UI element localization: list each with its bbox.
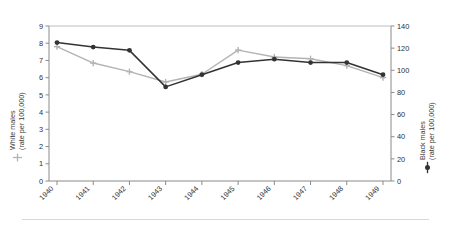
data-point — [199, 72, 204, 77]
series-white-males — [54, 44, 386, 86]
data-point — [272, 57, 277, 62]
left-tick-label: 7 — [39, 56, 43, 65]
x-tick-label: 1949 — [363, 184, 381, 202]
data-point — [127, 48, 132, 53]
left-tick-label: 3 — [39, 125, 43, 134]
x-tick-label: 1944 — [182, 184, 200, 202]
data-point — [236, 60, 241, 65]
chart-container: White males (rate per 100,000) Black mal… — [0, 0, 451, 232]
series-black-males — [55, 40, 386, 89]
left-tick-label: 6 — [39, 73, 43, 82]
bottom-divider — [22, 219, 429, 220]
x-tick-label: 1948 — [327, 184, 345, 202]
left-tick-label: 9 — [39, 22, 43, 31]
left-tick-label: 5 — [39, 91, 43, 100]
x-tick-label: 1947 — [291, 184, 309, 202]
data-point — [90, 60, 96, 66]
right-tick-label: 20 — [397, 155, 405, 164]
data-point — [381, 72, 386, 77]
x-tick-label: 1942 — [110, 184, 128, 202]
right-tick-label: 140 — [397, 22, 409, 31]
right-tick-label: 120 — [397, 44, 409, 53]
data-point — [344, 60, 349, 65]
data-point — [126, 69, 132, 75]
x-tick-label: 1943 — [146, 184, 164, 202]
left-tick-label: 4 — [39, 108, 43, 117]
right-tick-label: 100 — [397, 66, 409, 75]
plot-frame — [49, 26, 391, 181]
x-tick-label: 1941 — [74, 184, 92, 202]
chart-plot: 0123456789 020406080100120140 1940194119… — [0, 0, 451, 232]
left-tick-label: 2 — [39, 142, 43, 151]
left-tick-label: 8 — [39, 39, 43, 48]
right-tick-label: 80 — [397, 88, 405, 97]
left-tick-label: 1 — [39, 159, 43, 168]
x-tick-label: 1940 — [37, 184, 55, 202]
data-point — [55, 40, 60, 45]
data-point — [91, 45, 96, 50]
right-tick-label: 40 — [397, 132, 405, 141]
right-axis-ticks: 020406080100120140 — [391, 22, 409, 186]
x-axis-ticks: 1940194119421943194419451946194719481949 — [37, 181, 383, 202]
left-tick-label: 0 — [39, 177, 43, 186]
data-point — [308, 60, 313, 65]
data-point — [163, 84, 168, 89]
right-tick-label: 60 — [397, 110, 405, 119]
left-axis-ticks: 0123456789 — [39, 22, 49, 186]
data-series-group — [54, 40, 386, 89]
x-tick-label: 1946 — [255, 184, 273, 202]
x-tick-label: 1945 — [219, 184, 237, 202]
right-tick-label: 0 — [397, 177, 401, 186]
